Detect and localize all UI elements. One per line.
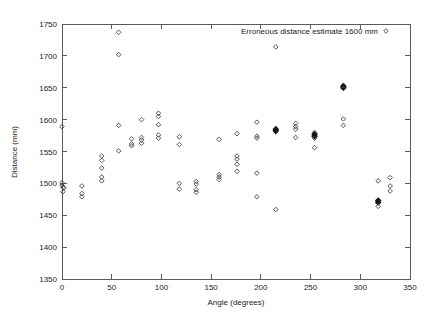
data-point-marker bbox=[99, 166, 104, 171]
plot-canvas: 050100150200250300350 135014001450150015… bbox=[0, 0, 430, 322]
data-point-marker bbox=[156, 133, 161, 138]
data-point-marker bbox=[139, 141, 144, 146]
y-axis-ticks: 135014001450150015501600165017001750 bbox=[39, 20, 410, 284]
x-tick-label: 150 bbox=[204, 283, 218, 292]
data-point-marker bbox=[156, 136, 161, 141]
data-point-marker bbox=[177, 181, 182, 186]
data-point-marker bbox=[255, 171, 260, 176]
data-point-marker bbox=[312, 145, 317, 150]
data-point-marker bbox=[384, 29, 389, 34]
data-point-marker bbox=[376, 179, 381, 184]
data-point-marker bbox=[255, 194, 260, 199]
data-point-marker bbox=[156, 122, 161, 127]
data-point-marker bbox=[273, 207, 278, 212]
data-point-marker bbox=[293, 121, 298, 126]
data-point-marker bbox=[388, 189, 393, 194]
data-point-marker bbox=[235, 162, 240, 167]
data-point-marker bbox=[388, 184, 393, 189]
data-point-marker bbox=[80, 194, 85, 199]
data-point-marker bbox=[235, 131, 240, 136]
data-point-marker bbox=[156, 114, 161, 119]
y-tick-label: 1650 bbox=[39, 84, 57, 93]
x-tick-label: 250 bbox=[304, 283, 318, 292]
y-tick-label: 1400 bbox=[39, 243, 57, 252]
data-point-marker bbox=[235, 169, 240, 174]
data-point-marker bbox=[80, 184, 85, 189]
data-point-marker bbox=[177, 135, 182, 140]
plot-frame bbox=[63, 25, 411, 280]
y-tick-label: 1500 bbox=[39, 179, 57, 188]
data-point-marker bbox=[177, 142, 182, 147]
y-tick-label: 1350 bbox=[39, 275, 57, 284]
x-tick-label: 200 bbox=[254, 283, 268, 292]
scatter-plot-figure: 050100150200250300350 135014001450150015… bbox=[0, 0, 430, 322]
x-tick-label: 350 bbox=[403, 283, 417, 292]
legend-label: Erroneous distance estimate 1600 mm bbox=[241, 27, 378, 36]
data-point-marker bbox=[293, 135, 298, 140]
data-point-marker bbox=[129, 136, 134, 141]
data-point-marker bbox=[177, 187, 182, 192]
y-tick-label: 1700 bbox=[39, 52, 57, 61]
data-point-marker bbox=[235, 154, 240, 159]
data-point-marker bbox=[341, 123, 346, 128]
y-tick-label: 1750 bbox=[39, 20, 57, 29]
y-tick-label: 1550 bbox=[39, 148, 57, 157]
data-points-group bbox=[60, 30, 393, 212]
data-point-marker bbox=[273, 45, 278, 50]
x-tick-label: 0 bbox=[60, 283, 65, 292]
y-axis-title: Distance (mm) bbox=[10, 126, 19, 178]
x-tick-label: 300 bbox=[354, 283, 368, 292]
data-point-marker bbox=[217, 137, 222, 142]
data-point-marker bbox=[116, 149, 121, 154]
plot-border bbox=[63, 25, 411, 280]
data-point-marker bbox=[80, 191, 85, 196]
y-tick-label: 1600 bbox=[39, 116, 57, 125]
data-point-marker bbox=[255, 120, 260, 125]
data-point-marker bbox=[139, 117, 144, 122]
x-axis-title: Angle (degrees) bbox=[208, 298, 265, 307]
data-point-marker bbox=[116, 52, 121, 57]
data-point-marker bbox=[388, 175, 393, 180]
data-point-marker bbox=[116, 30, 121, 35]
data-point-marker bbox=[116, 123, 121, 128]
x-tick-label: 100 bbox=[155, 283, 169, 292]
legend-group: Erroneous distance estimate 1600 mm bbox=[241, 27, 388, 36]
data-point-marker bbox=[235, 157, 240, 162]
data-point-marker bbox=[156, 111, 161, 116]
y-tick-label: 1450 bbox=[39, 211, 57, 220]
x-tick-label: 50 bbox=[107, 283, 116, 292]
data-point-marker bbox=[341, 117, 346, 122]
